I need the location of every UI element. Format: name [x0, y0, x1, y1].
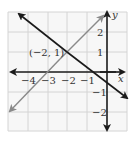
y-tick-label: 1 [97, 47, 103, 58]
x-tick-label: −3 [41, 75, 56, 86]
y-axis-label: y [111, 9, 118, 20]
intersection-label: (−2, 1) [29, 47, 64, 58]
y-tick-label: −2 [92, 107, 107, 118]
x-tick-label: −2 [61, 75, 76, 86]
y-tick-label: 2 [97, 27, 103, 38]
x-tick-label: −4 [21, 75, 36, 86]
x-axis-label: x [118, 73, 124, 84]
y-tick-label: −1 [92, 87, 107, 98]
x-tick-label: −1 [80, 75, 95, 86]
coordinate-plane: y x (−2, 1) −4 −3 −2 −1 2 1 −1 −2 [0, 0, 136, 142]
